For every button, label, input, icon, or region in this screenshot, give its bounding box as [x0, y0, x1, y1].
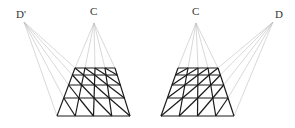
ray-line: [24, 22, 72, 75]
grid-diagonal: [95, 68, 106, 75]
ray-line: [218, 22, 273, 68]
ray-line: [224, 22, 273, 85]
ray-line: [228, 22, 273, 98]
grid-diagonal: [84, 75, 95, 85]
grid-diagonal: [94, 85, 109, 98]
grid-diagonal: [72, 75, 81, 85]
grid-diagonal: [216, 98, 228, 116]
grid-diagonal: [75, 68, 84, 75]
point-label: D: [275, 8, 283, 20]
perspective-diagram: D'C CD: [0, 0, 295, 128]
left-perspective-figure: D'C: [16, 5, 130, 116]
grid-diagonal: [95, 75, 108, 85]
grid-diagonal: [64, 98, 76, 116]
ray-line: [75, 23, 94, 68]
ray-line: [94, 23, 95, 68]
ray-line: [85, 23, 94, 68]
grid-diagonal: [82, 85, 95, 98]
right-perspective-figure: CD: [161, 5, 283, 116]
grid-diagonal: [198, 85, 211, 98]
grid-diagonal: [213, 85, 224, 98]
ray-line: [94, 23, 105, 68]
perspective-grid: [57, 68, 130, 116]
ray-line: [24, 22, 57, 116]
point-label: C: [90, 5, 97, 17]
grid-diagonal: [209, 68, 218, 75]
ray-line: [234, 22, 273, 116]
grid-diagonal: [198, 68, 208, 75]
ray-line: [94, 23, 115, 68]
grid-diagonal: [198, 75, 209, 85]
projection-rays: [24, 22, 115, 116]
grid-diagonal: [198, 98, 213, 116]
perspective-grid: [161, 68, 234, 116]
ray-line: [24, 22, 64, 98]
point-label: C: [192, 5, 199, 17]
grid-diagonal: [69, 85, 79, 98]
point-label: D': [16, 8, 26, 20]
grid-diagonal: [211, 75, 221, 85]
ray-line: [178, 23, 196, 68]
grid-diagonal: [85, 68, 95, 75]
ray-line: [196, 23, 218, 68]
ray-line: [24, 22, 69, 85]
ray-line: [188, 23, 196, 68]
ray-line: [24, 22, 75, 68]
grid-diagonal: [79, 98, 94, 116]
